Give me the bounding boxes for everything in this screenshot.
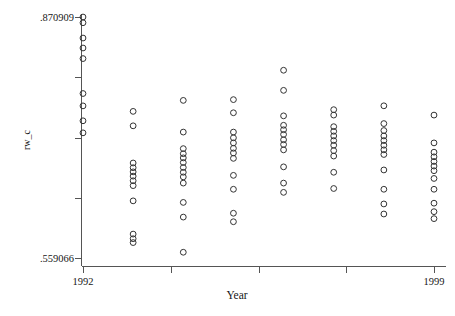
data-point-marker xyxy=(130,123,136,129)
data-point-marker xyxy=(80,56,86,62)
data-point-marker xyxy=(130,108,136,114)
data-point-marker xyxy=(431,140,437,146)
data-point-marker xyxy=(231,172,237,178)
data-point-marker xyxy=(281,164,287,170)
data-point-marker xyxy=(180,214,186,220)
data-point-marker xyxy=(381,103,387,109)
data-point-marker xyxy=(431,186,437,192)
data-point-marker xyxy=(80,35,86,41)
data-point-marker xyxy=(431,176,437,182)
scatter-plot-figure: .870909 .559066 rw_c 1992 1999 Year xyxy=(0,0,455,316)
data-point-marker xyxy=(431,209,437,215)
data-point-marker xyxy=(231,129,237,135)
data-point-marker xyxy=(231,110,237,116)
data-point-marker xyxy=(80,130,86,136)
data-point-marker xyxy=(281,87,287,93)
data-point-marker xyxy=(331,186,337,192)
data-point-marker xyxy=(80,91,86,97)
y-axis-max-label: .870909 xyxy=(40,12,74,23)
data-point-marker xyxy=(130,198,136,204)
data-point-marker xyxy=(80,118,86,124)
data-point-marker xyxy=(281,189,287,195)
x-axis-title: Year xyxy=(226,289,247,301)
data-point-marker xyxy=(381,186,387,192)
y-axis-ticks xyxy=(75,18,82,259)
data-point-marker xyxy=(381,201,387,207)
data-point-marker xyxy=(431,200,437,206)
data-point-marker xyxy=(231,97,237,103)
data-point-marker xyxy=(180,180,186,186)
y-axis-title: rw_c xyxy=(21,129,32,150)
plot-canvas: .870909 .559066 rw_c 1992 1999 Year xyxy=(0,0,455,316)
x-axis-ticks xyxy=(84,267,435,274)
data-point-marker xyxy=(231,210,237,216)
data-point-marker xyxy=(80,45,86,51)
data-point-marker xyxy=(231,219,237,225)
data-point-marker xyxy=(80,103,86,109)
data-point-marker xyxy=(180,129,186,135)
data-point-marker xyxy=(180,200,186,206)
data-point-marker xyxy=(331,169,337,175)
data-point-marker xyxy=(431,216,437,222)
data-point-marker xyxy=(281,180,287,186)
data-point-marker xyxy=(231,186,237,192)
data-point-marker xyxy=(180,249,186,255)
data-points-group xyxy=(80,14,437,255)
data-point-marker xyxy=(130,240,136,246)
data-point-marker xyxy=(381,121,387,127)
y-axis-min-label: .559066 xyxy=(40,253,74,264)
data-point-marker xyxy=(80,20,86,26)
axes-group xyxy=(82,14,447,267)
data-point-marker xyxy=(281,67,287,73)
data-point-marker xyxy=(381,211,387,217)
data-point-marker xyxy=(281,113,287,119)
x-axis-min-label: 1992 xyxy=(73,276,94,287)
data-point-marker xyxy=(180,97,186,103)
x-axis-max-label: 1999 xyxy=(424,276,445,287)
data-point-marker xyxy=(431,112,437,118)
data-point-marker xyxy=(381,167,387,173)
